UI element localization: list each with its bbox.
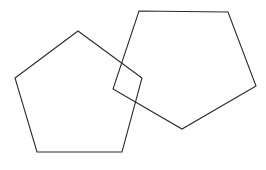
pentagons-figure: Two overlapping pentagons — [0, 0, 266, 170]
figure-background — [0, 0, 266, 170]
